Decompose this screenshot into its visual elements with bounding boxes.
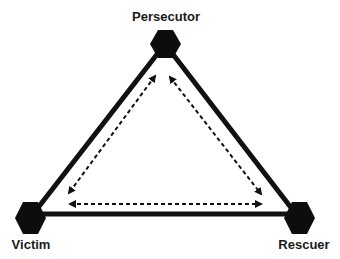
dashed-arrows	[69, 76, 261, 204]
rescuer-label: Rescuer	[278, 238, 329, 251]
arrow-persecutor-victim	[69, 76, 155, 193]
edge-rescuer-persecutor	[165, 44, 299, 218]
drama-triangle-diagram	[0, 0, 340, 259]
arrow-rescuer-persecutor	[170, 77, 261, 194]
edge-persecutor-victim	[30, 44, 165, 218]
persecutor-label: Persecutor	[132, 10, 200, 23]
victim-label: Victim	[12, 238, 51, 251]
